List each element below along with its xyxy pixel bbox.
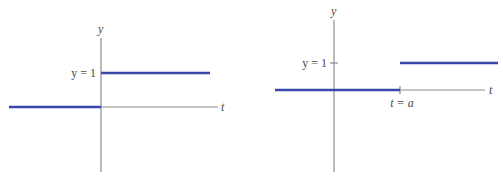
left-t-axis-label: t [221, 100, 225, 114]
left-level-label: y = 1 [71, 66, 96, 80]
right-shift-label: t = a [390, 96, 413, 110]
left-plot: y t y = 1 [9, 22, 225, 172]
figure: y t y = 1 y t y = 1 t = a [0, 0, 503, 184]
right-y-axis-label: y [330, 4, 337, 18]
right-plot: y t y = 1 t = a [275, 4, 498, 172]
right-t-axis-label: t [489, 83, 493, 97]
right-level-label: y = 1 [302, 56, 327, 70]
left-y-axis-label: y [97, 22, 104, 36]
